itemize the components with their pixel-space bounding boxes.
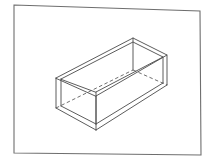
figure-container xyxy=(0,0,214,165)
isometric-open-box-drawing xyxy=(0,0,214,165)
